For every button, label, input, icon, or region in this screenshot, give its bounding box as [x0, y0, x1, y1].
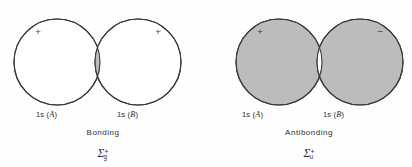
antibonding-orbital-label-b: 1s (B) — [323, 110, 344, 119]
panel-antibonding: + − 1s (A) 1s (B) Antibonding Σu+ — [206, 0, 412, 167]
bonding-phase-sign-a: + — [35, 26, 41, 37]
antibonding-phase-sign-b: − — [377, 26, 383, 37]
panel-bonding: + + 1s (A) 1s (B) Bonding Σg+ — [0, 0, 206, 167]
antibonding-orbital-label-a-close: ) — [260, 110, 263, 119]
antibonding-orbital-label-a: 1s (A) — [242, 110, 263, 119]
bonding-orbital-label-b-close: ) — [135, 110, 138, 119]
bonding-orbital-label-a-close: ) — [54, 110, 57, 119]
bonding-orbital-label-b: 1s (B) — [117, 110, 138, 119]
bonding-type-label: Bonding — [0, 128, 206, 137]
antibonding-orbital-label-a-text: 1s ( — [242, 110, 255, 119]
antibonding-phase-sign-a: + — [257, 26, 263, 37]
bonding-orbital-label-b-text: 1s ( — [117, 110, 130, 119]
antibonding-orbital-diagram: + − — [206, 0, 412, 120]
antibonding-term-superscript: + — [310, 148, 314, 155]
bonding-orbital-label-a-text: 1s ( — [36, 110, 49, 119]
bonding-orbital-diagram: + + — [0, 0, 206, 120]
antibonding-orbital-label-b-close: ) — [341, 110, 344, 119]
bonding-orbital-label-a: 1s (A) — [36, 110, 57, 119]
antibonding-term-symbol: Σu+ — [206, 143, 412, 161]
bonding-phase-sign-b: + — [155, 26, 161, 37]
bonding-term-superscript: + — [104, 148, 108, 155]
molecular-orbital-figure: + + 1s (A) 1s (B) Bonding Σg+ — [0, 0, 412, 167]
bonding-term-symbol: Σg+ — [0, 143, 206, 161]
antibonding-type-label: Antibonding — [206, 128, 412, 137]
antibonding-orbital-label-b-text: 1s ( — [323, 110, 336, 119]
